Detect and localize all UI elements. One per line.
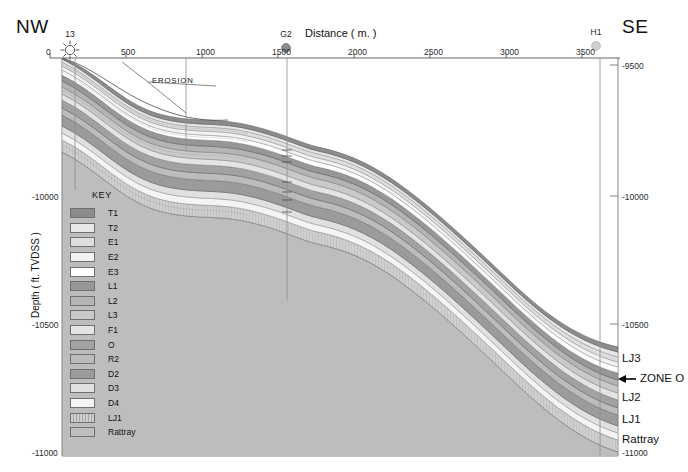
key-item-l2[interactable]: L2: [70, 294, 135, 309]
key-swatch-t1: [70, 208, 95, 218]
key-label-f1: F1: [108, 325, 118, 335]
key-swatch-e1: [70, 237, 95, 247]
key-swatch-e3: [70, 267, 95, 277]
key-label-l1: L1: [108, 281, 117, 291]
erosion-annotation-label: EROSION: [152, 76, 194, 85]
key-item-d3[interactable]: D3: [70, 381, 135, 396]
key-label-r2: R2: [108, 354, 119, 364]
right-label-rattray: Rattray: [622, 433, 659, 445]
key-label-e3: E3: [108, 267, 118, 277]
right-label-lj3: LJ3: [622, 352, 641, 364]
stratigraphic-units: [62, 58, 618, 472]
key-swatch-lj1: [70, 413, 95, 423]
key-title: KEY: [92, 190, 135, 200]
distance-axis-line: [50, 53, 620, 58]
key-label-l3: L3: [108, 310, 117, 320]
right-label-zone-o: ZONE O: [640, 372, 684, 384]
key-item-e1[interactable]: E1: [70, 235, 135, 250]
key-swatch-r2: [70, 354, 95, 364]
right-label-lj1: LJ1: [622, 413, 641, 425]
key-item-r2[interactable]: R2: [70, 352, 135, 367]
key-item-d4[interactable]: D4: [70, 396, 135, 411]
key-swatch-d4: [70, 398, 95, 408]
key-swatch-rattray: [70, 427, 95, 437]
key-item-l1[interactable]: L1: [70, 279, 135, 294]
key-item-rattray[interactable]: Rattray: [70, 425, 135, 440]
key-item-l3[interactable]: L3: [70, 308, 135, 323]
key-label-l2: L2: [108, 296, 117, 306]
key-item-f1[interactable]: F1: [70, 323, 135, 338]
key-label-d4: D4: [108, 398, 119, 408]
key-label-d2: D2: [108, 369, 119, 379]
zone-o-arrow: [618, 375, 636, 383]
key-swatch-l1: [70, 281, 95, 291]
key-label-t2: T2: [108, 223, 118, 233]
key-label-e1: E1: [108, 237, 118, 247]
key-label-o: O: [108, 340, 115, 350]
key-swatch-t2: [70, 223, 95, 233]
key-legend: KEY T1 T2 E1 E2 E3 L1 L2 L3 F1: [70, 190, 135, 440]
key-swatch-e2: [70, 252, 95, 262]
key-swatch-o: [70, 340, 95, 350]
cross-section-figure: NW SE Distance ( m. ) Depth ( ft. TVDSS …: [0, 0, 688, 472]
key-item-e2[interactable]: E2: [70, 250, 135, 265]
key-item-d2[interactable]: D2: [70, 367, 135, 382]
key-label-t1: T1: [108, 208, 118, 218]
key-label-d3: D3: [108, 383, 119, 393]
key-item-o[interactable]: O: [70, 337, 135, 352]
key-item-e3[interactable]: E3: [70, 264, 135, 279]
key-swatch-f1: [70, 325, 95, 335]
key-item-lj1[interactable]: LJ1: [70, 410, 135, 425]
key-item-t2[interactable]: T2: [70, 221, 135, 236]
key-item-t1[interactable]: T1: [70, 206, 135, 221]
key-swatch-d2: [70, 369, 95, 379]
key-label-e2: E2: [108, 252, 118, 262]
key-swatch-l3: [70, 310, 95, 320]
key-swatch-l2: [70, 296, 95, 306]
key-label-rattray: Rattray: [108, 427, 135, 437]
right-label-lj2: LJ2: [622, 391, 641, 403]
key-swatch-d3: [70, 383, 95, 393]
key-label-lj1: LJ1: [108, 413, 122, 423]
